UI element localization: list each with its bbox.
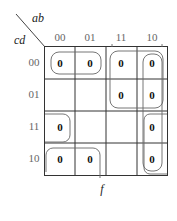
group-col10-bottom-inner [144, 114, 167, 174]
col-label-0: 00 [55, 31, 67, 43]
col-variable-label: ab [32, 11, 44, 25]
col-label-2: 11 [116, 31, 127, 43]
cell-r0-c2: 0 [118, 57, 124, 69]
cell-r0-c3: 0 [149, 57, 155, 69]
col-label-3: 10 [147, 31, 159, 43]
cell-r0-c0: 0 [57, 57, 63, 69]
row-label-2: 11 [29, 120, 40, 132]
cell-r3-c0: 0 [57, 153, 63, 165]
cell-r1-c2: 0 [118, 89, 124, 101]
row-label-1: 01 [29, 88, 40, 100]
row-variable-label: cd [14, 33, 26, 47]
cell-r3-c3: 0 [149, 153, 155, 165]
col-label-1: 01 [85, 31, 96, 43]
row-label-0: 00 [29, 56, 41, 68]
function-label: f [100, 182, 105, 196]
cell-r2-c3: 0 [149, 121, 155, 133]
cell-r1-c3: 0 [149, 89, 155, 101]
karnaugh-map: ab cd 00 01 11 10 00 01 11 10 0 0 0 0 0 … [0, 0, 177, 221]
cell-r0-c1: 0 [87, 57, 93, 69]
row-label-3: 10 [29, 152, 41, 164]
cell-r2-c0: 0 [57, 121, 63, 133]
cell-r3-c1: 0 [87, 153, 93, 165]
